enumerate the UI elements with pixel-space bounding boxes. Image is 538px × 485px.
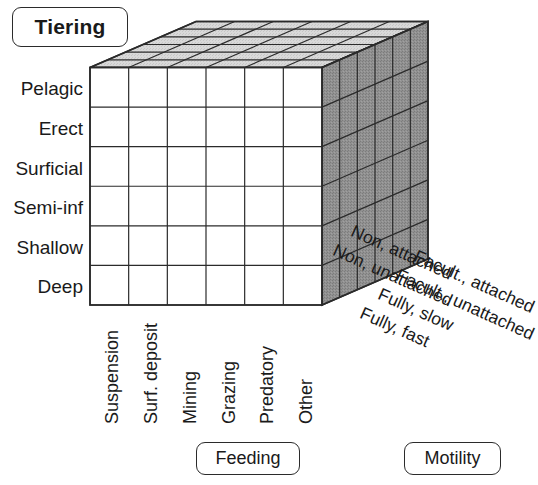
feeding-label-5: Other	[297, 379, 315, 424]
tiering-label-3: Semi-inf	[0, 198, 83, 217]
tiering-label-4: Shallow	[0, 238, 83, 257]
tiering-label-0: Pelagic	[0, 79, 83, 98]
tiering-label-1: Erect	[0, 119, 83, 138]
feeding-label-0: Suspension	[103, 330, 121, 424]
feeding-label-3: Grazing	[220, 361, 238, 424]
feeding-label-1: Surf. deposit	[142, 323, 160, 424]
tiering-label-2: Surficial	[0, 159, 83, 178]
feeding-label-4: Predatory	[258, 346, 276, 424]
axis-tag-feeding: Feeding	[196, 442, 300, 475]
axis-tag-motility: Motility	[404, 442, 501, 475]
feeding-label-2: Mining	[181, 371, 199, 424]
tiering-label-5: Deep	[0, 277, 83, 296]
axis-tag-tiering: Tiering	[12, 7, 128, 47]
